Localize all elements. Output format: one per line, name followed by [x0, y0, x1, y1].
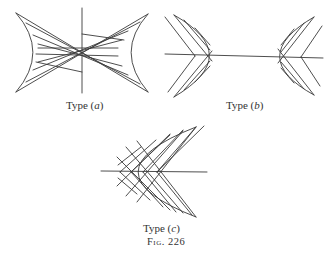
horizontal-axis-c	[101, 171, 207, 172]
figure-226	[0, 0, 329, 255]
label-prefix: Type (	[66, 99, 94, 111]
right-parabola	[280, 17, 315, 95]
label-prefix: Type (	[226, 99, 254, 111]
hatching-lines-b-left	[165, 15, 212, 97]
left-parabola	[174, 15, 210, 97]
label-suffix: )	[260, 99, 264, 111]
label-suffix: )	[100, 99, 104, 111]
label-type-c: Type (c)	[143, 222, 180, 234]
figure-caption: Fig. 226	[147, 236, 185, 247]
label-suffix: )	[176, 222, 180, 234]
label-type-a: Type (a)	[66, 99, 103, 111]
panel-type-c	[101, 126, 207, 217]
panel-type-b	[165, 15, 323, 97]
hatching-lines-b-right	[278, 17, 322, 95]
label-type-b: Type (b)	[226, 99, 263, 111]
horizontal-axis	[165, 54, 323, 58]
label-prefix: Type (	[143, 222, 171, 234]
panel-type-a	[16, 8, 148, 93]
